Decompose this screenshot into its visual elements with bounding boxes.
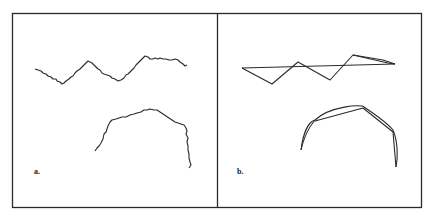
horizontal-chord (242, 64, 395, 68)
panel-b-curves (242, 55, 397, 167)
figure-canvas: a. b. (0, 0, 430, 218)
arc-chords (315, 108, 396, 167)
panel-a-curves (35, 56, 191, 168)
smooth-arc (301, 106, 397, 167)
panel-label-b: b. (237, 167, 243, 176)
panel-label-a: a. (34, 167, 40, 176)
zigzag-polyline (242, 55, 395, 84)
wavy-horizontal-curve (35, 56, 187, 84)
wavy-arc-curve (95, 109, 191, 168)
figure: a. b. (0, 0, 430, 218)
arc-inner-curve (301, 120, 315, 150)
